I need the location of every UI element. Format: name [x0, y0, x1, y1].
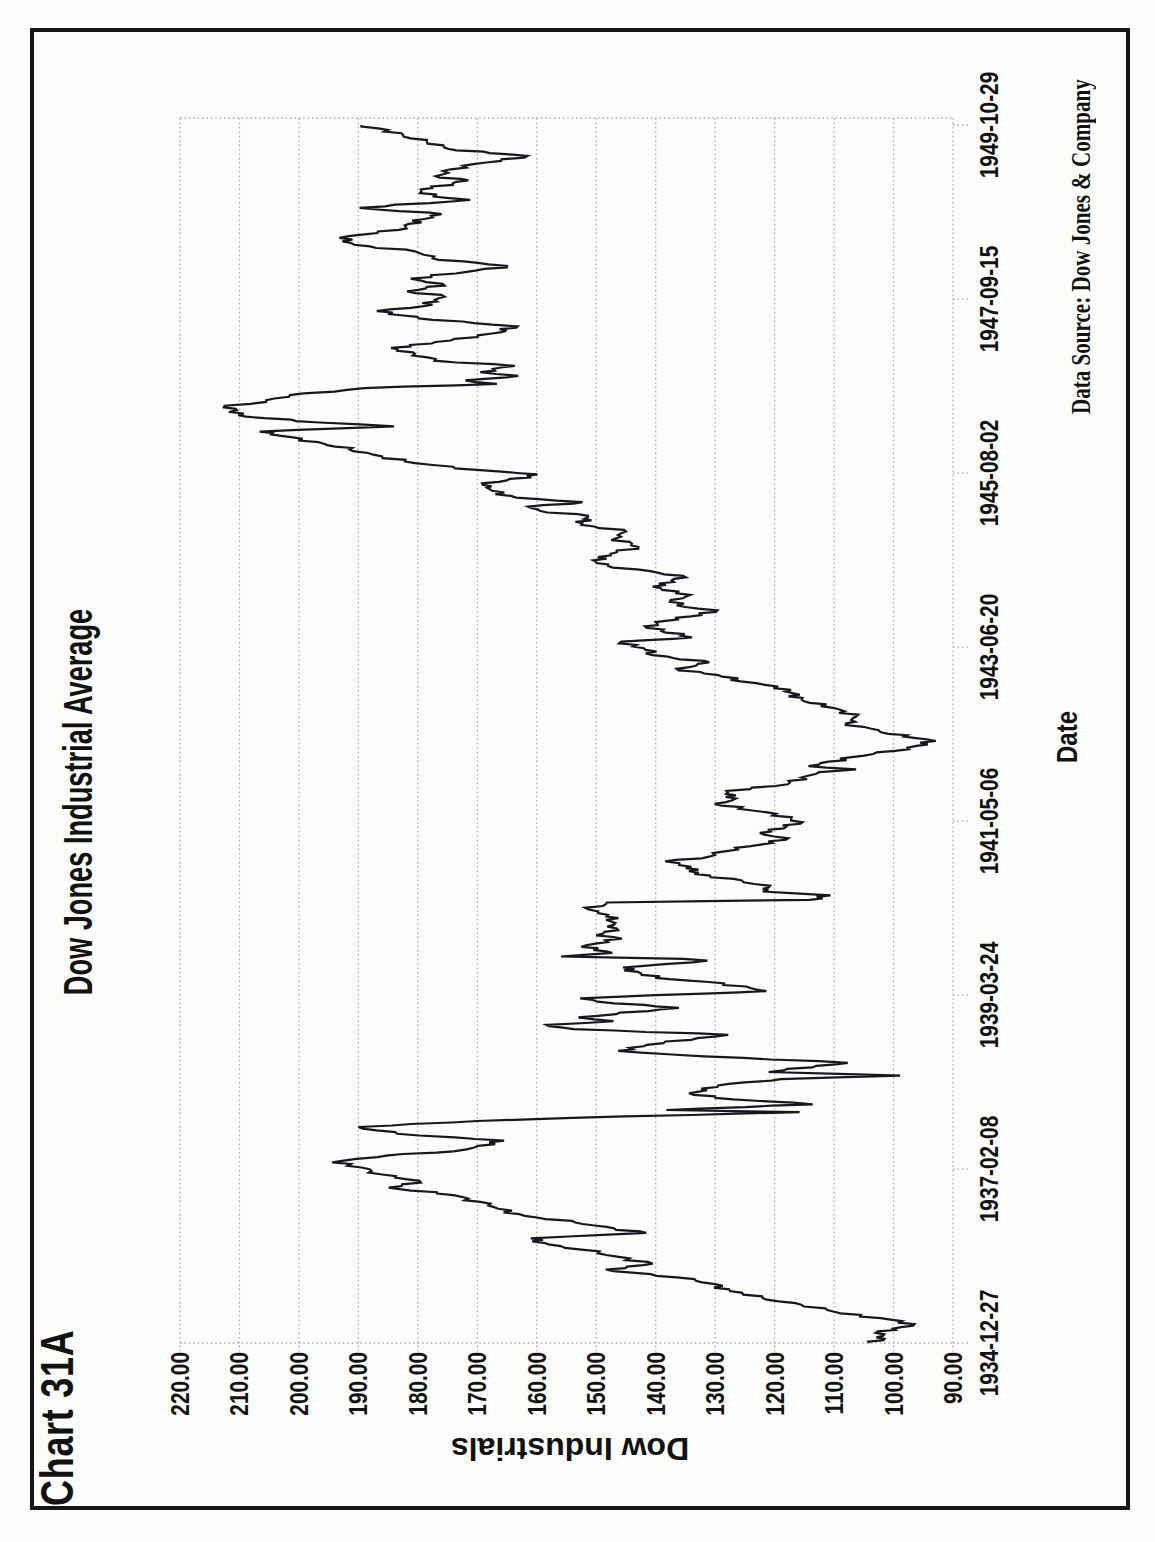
- x-axis-title: Date: [1050, 711, 1084, 763]
- x-axis-tick-label: 1943-06-20: [974, 594, 1005, 700]
- rotated-chart-canvas: Chart 31A Dow Jones Industrial Average 2…: [0, 0, 1155, 1542]
- y-axis-tick-label: 130.00: [701, 1352, 729, 1472]
- y-axis-tick-label: 90.00: [939, 1352, 967, 1472]
- x-axis-tick-label: 1941-05-06: [974, 768, 1005, 874]
- x-axis-tick-label: 1949-10-29: [974, 72, 1005, 178]
- x-axis-tick-label: 1934-12-27: [974, 1290, 1005, 1396]
- x-axis-tick-label: 1945-08-02: [974, 420, 1005, 526]
- y-axis-tick-label: 100.00: [880, 1352, 908, 1472]
- plot-border: [180, 118, 953, 1343]
- y-axis-title: Dow Industrials: [451, 1430, 689, 1467]
- data-source-note: Data Source: Dow Jones & Company: [1066, 102, 1097, 414]
- x-axis-tick-label: 1937-02-08: [974, 1116, 1005, 1222]
- x-axis-tick-label: 1939-03-24: [974, 942, 1005, 1048]
- axis-tick-marks: [180, 125, 968, 1356]
- price-line-series: [224, 125, 936, 1343]
- y-axis-tick-label: 210.00: [225, 1352, 253, 1472]
- x-axis-tick-label: 1947-09-15: [974, 246, 1005, 352]
- y-axis-tick-label: 110.00: [820, 1352, 848, 1472]
- chart-title: Dow Jones Industrial Average: [56, 609, 101, 995]
- y-axis-tick-label: 220.00: [166, 1352, 194, 1472]
- y-axis-tick-label: 190.00: [344, 1352, 372, 1472]
- gridlines: [180, 118, 953, 1343]
- y-axis-tick-label: 120.00: [761, 1352, 789, 1472]
- y-axis-tick-label: 180.00: [404, 1352, 432, 1472]
- chart-number-heading: Chart 31A: [30, 1329, 84, 1506]
- y-axis-tick-label: 200.00: [285, 1352, 313, 1472]
